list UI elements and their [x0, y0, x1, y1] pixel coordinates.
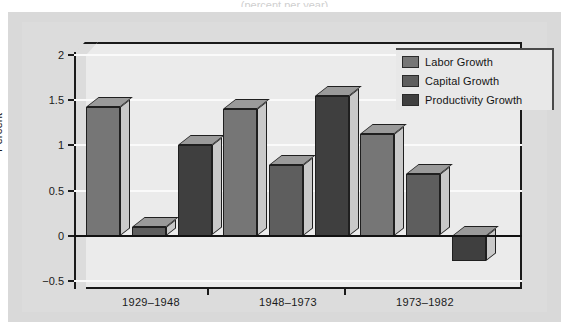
bar-front-face — [269, 165, 303, 236]
x-tick-label: 1948–1973 — [259, 296, 317, 308]
legend-item-capital-growth: Capital Growth — [402, 72, 548, 90]
y-tick-label: 0.5 — [28, 185, 64, 197]
bar-side-face — [394, 126, 404, 236]
bar-side-face — [349, 88, 359, 236]
bar-front-face — [315, 96, 349, 236]
gridline — [74, 280, 522, 282]
legend-swatch-capital-growth — [402, 75, 419, 87]
bar-side-face — [257, 101, 267, 235]
bar-productivity-growth-0 — [178, 145, 212, 235]
x-tick-label: 1973–1982 — [396, 296, 454, 308]
bar-labor-growth-2 — [360, 134, 394, 236]
bar-side-face — [303, 157, 313, 235]
bar-side-face — [440, 166, 450, 235]
bar-front-face — [223, 109, 257, 236]
x-tick-mark — [207, 289, 209, 295]
bar-labor-growth-0 — [86, 107, 120, 236]
bar-front-face — [178, 145, 212, 235]
x-tick-label: 1929–1948 — [122, 296, 180, 308]
legend-item-labor-growth: Labor Growth — [402, 53, 548, 71]
bar-labor-growth-1 — [223, 109, 257, 236]
bar-capital-growth-2 — [406, 174, 440, 235]
chart-figure: (percent per year) Percent 21.510.50−0.5… — [0, 0, 569, 330]
y-tick-label: 0 — [28, 230, 64, 242]
top-caption: (percent per year) — [0, 0, 569, 7]
x-tick-mark — [344, 289, 346, 295]
bar-front-face — [452, 236, 486, 261]
legend-swatch-productivity-growth — [402, 94, 419, 106]
bar-side-face — [212, 138, 222, 236]
zero-baseline — [74, 235, 522, 237]
bar-productivity-growth-2 — [452, 236, 486, 261]
chart-legend: Labor Growth Capital Growth Productivity… — [396, 48, 554, 110]
y-tick-label: −0.5 — [28, 275, 64, 287]
bar-front-face — [86, 107, 120, 236]
y-axis-label: Percent — [0, 113, 4, 152]
y-axis-line — [74, 52, 76, 289]
y-tick-label: 1 — [28, 139, 64, 151]
legend-label-labor-growth: Labor Growth — [425, 56, 493, 68]
legend-item-productivity-growth: Productivity Growth — [402, 91, 548, 109]
legend-swatch-labor-growth — [402, 56, 419, 68]
legend-label-productivity-growth: Productivity Growth — [425, 94, 522, 106]
legend-label-capital-growth: Capital Growth — [425, 75, 499, 87]
y-tick-label: 1.5 — [28, 94, 64, 106]
bar-side-face — [120, 99, 130, 236]
gridline — [74, 144, 522, 146]
y-tick-label: 2 — [28, 49, 64, 61]
bar-front-face — [360, 134, 394, 236]
bar-productivity-growth-1 — [315, 96, 349, 236]
bar-front-face — [406, 174, 440, 235]
bar-capital-growth-1 — [269, 165, 303, 236]
